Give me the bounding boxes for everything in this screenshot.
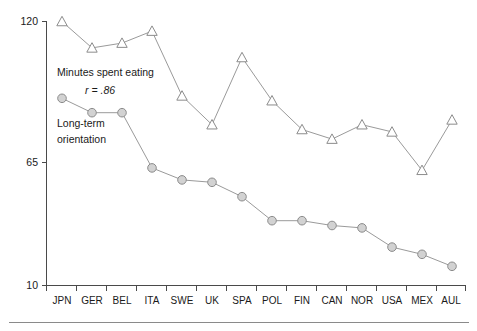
data-point (388, 243, 397, 252)
data-point (238, 192, 247, 201)
annotation-orientation-line2: orientation (57, 133, 106, 145)
data-point (448, 262, 457, 271)
x-tick-label-uk: UK (205, 295, 219, 306)
x-tick-label-fin: FIN (294, 295, 310, 306)
data-point (178, 176, 187, 185)
data-point (418, 250, 427, 259)
data-point (58, 94, 67, 103)
data-point (268, 216, 277, 225)
chart-background (0, 0, 477, 331)
y-tick-label-10: 10 (26, 279, 38, 291)
x-tick-label-spa: SPA (232, 295, 252, 306)
annotation-eating-label: Minutes spent eating (57, 66, 154, 78)
y-tick-label-120: 120 (20, 15, 38, 27)
data-point (118, 108, 127, 117)
data-point (328, 221, 337, 230)
x-tick-label-aul: AUL (441, 295, 461, 306)
x-tick-label-swe: SWE (171, 295, 194, 306)
x-tick-label-usa: USA (382, 295, 403, 306)
x-tick-label-bel: BEL (113, 295, 132, 306)
y-tick-label-65: 65 (26, 156, 38, 168)
data-point (88, 108, 97, 117)
x-tick-label-ger: GER (81, 295, 103, 306)
data-point (148, 164, 157, 173)
chart-figure: 120 65 10 JPN GER BEL ITA SWE (0, 0, 477, 331)
chart-svg: 120 65 10 JPN GER BEL ITA SWE (0, 0, 477, 331)
x-tick-label-pol: POL (262, 295, 282, 306)
data-point (208, 178, 217, 187)
x-tick-label-mex: MEX (411, 295, 433, 306)
x-tick-label-jpn: JPN (53, 295, 72, 306)
data-point (298, 216, 307, 225)
data-point (358, 224, 367, 233)
annotation-eating-correlation: r = .86 (85, 84, 115, 96)
x-tick-label-can: CAN (321, 295, 342, 306)
x-tick-label-nor: NOR (351, 295, 373, 306)
x-tick-label-ita: ITA (145, 295, 160, 306)
annotation-orientation-line1: Long-term (57, 117, 105, 129)
